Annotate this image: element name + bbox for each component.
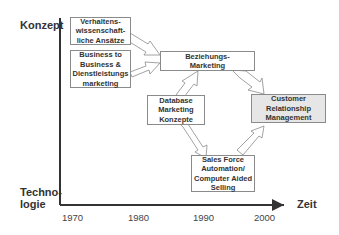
box-sales-force-automation: Sales Force Automation/ Computer Aided S…: [191, 155, 255, 192]
x-tick-1990: 1990: [193, 212, 214, 223]
box-customer-relationship-management: Customer Relationship Management: [251, 94, 326, 123]
arrow-database-beziehung: [176, 71, 198, 97]
x-tick-1980: 1980: [128, 212, 149, 223]
arrow-database-sfa: [180, 124, 207, 158]
arrow-verhaltens-beziehung: [128, 33, 160, 55]
arrow-beziehung-crm: [232, 70, 264, 94]
box-verhaltenswissenschaftliche-ansaetze: Verhaltens- wissenschaft- liche Ansätze: [70, 17, 131, 45]
arrow-sfa-crm: [237, 126, 264, 155]
x-tick-2000: 2000: [254, 212, 275, 223]
x-axis-label: Zeit: [297, 198, 317, 210]
x-tick-1970: 1970: [62, 212, 83, 223]
arrow-b2b-beziehung: [130, 62, 160, 77]
y-axis-top-label: Konzept: [20, 19, 63, 31]
y-axis-bottom-label: Techno- logie: [20, 186, 62, 210]
box-beziehungs-marketing: Beziehungs- Marketing: [160, 51, 255, 71]
box-database-marketing: Database Marketing Konzepte: [147, 95, 205, 125]
box-business-to-business: Business to Business & Dienstleistungs m…: [70, 50, 131, 88]
